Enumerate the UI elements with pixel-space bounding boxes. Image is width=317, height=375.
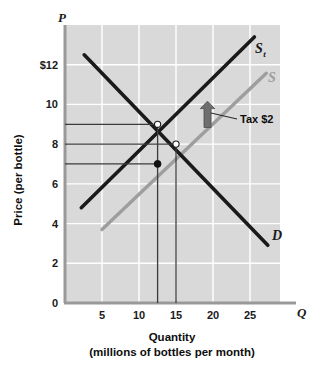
point-equilibrium-with-tax [155, 121, 161, 127]
point-equilibrium-no-tax [173, 141, 179, 147]
x-axis-title: Quantity [149, 331, 196, 343]
y-tick-label-4: 4 [52, 218, 59, 230]
y-tick-label-0: 0 [52, 297, 58, 309]
y-tick-label-10: 10 [46, 98, 58, 110]
point-seller-net-price [154, 161, 161, 168]
y-tick-label-2: 2 [52, 257, 58, 269]
y-axis-title: Price (per bottle) [12, 134, 24, 226]
x-tick-label-25: 25 [244, 309, 256, 321]
supply-demand-tax-figure: Tax $2 St S D P Q 0 2 4 6 8 10 $12 5 10 … [0, 0, 317, 375]
x-axis-symbol: Q [297, 305, 307, 320]
y-tick-label-12: $12 [40, 59, 58, 71]
y-axis-symbol: P [58, 10, 67, 25]
chart-canvas: Tax $2 St S D P Q 0 2 4 6 8 10 $12 5 10 … [0, 0, 317, 375]
x-tick-label-10: 10 [133, 309, 145, 321]
y-tick-label-8: 8 [52, 138, 58, 150]
supply-curve-s-label: S [268, 70, 276, 85]
x-axis-subtitle: (millions of bottles per month) [89, 346, 255, 358]
x-tick-label-20: 20 [207, 309, 219, 321]
x-tick-label-15: 15 [170, 309, 182, 321]
demand-curve-d-label: D [271, 228, 282, 243]
x-tick-label-5: 5 [99, 309, 105, 321]
y-tick-label-6: 6 [52, 178, 58, 190]
tax-annotation-label: Tax $2 [240, 113, 273, 125]
